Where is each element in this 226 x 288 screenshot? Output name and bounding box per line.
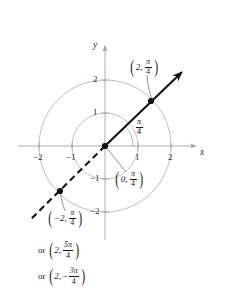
right-paren: ) [81,269,85,284]
left-paren: ( [130,60,134,75]
label-alt-two: or ( 2 , − 3π 4 ) [38,266,86,286]
theta-denominator: 4 [71,278,77,286]
label-point-origin: ( 0 , π 4 ) [114,170,144,188]
x-tick-label-minus1: −1 [66,153,76,162]
ordered-pair-origin: ( 0 , π 4 ) [114,170,144,188]
ordered-pair-inner: 2 , π 4 [135,58,152,76]
ordered-pair-inner: −2 , π 4 [53,209,76,227]
theta-fraction: π 4 [129,170,137,188]
plotted-point-upper[interactable] [148,98,154,104]
ordered-pair-lower: ( −2 , π 4 ) [47,209,83,227]
theta-numerator: π [130,170,136,178]
label-point-lower: ( −2 , π 4 ) [47,209,83,227]
ordered-pair-inner: 0 , π 4 [120,170,137,188]
angle-numerator: π [136,118,142,126]
theta-denominator: 4 [145,68,151,76]
theta-numerator: 5π [63,241,73,249]
left-paren: ( [49,243,53,258]
theta-numerator: 3π [69,267,79,275]
plotted-point-origin[interactable] [102,143,108,149]
ordered-pair-inner: 2 , − 3π 4 [54,267,80,285]
left-paren: ( [48,211,52,226]
angle-denominator: 4 [136,128,142,136]
y-tick-label-minus2: −2 [90,207,100,216]
label-point-upper: ( 2 , π 4 ) [129,58,159,76]
x-tick-label-2: 2 [168,153,173,162]
y-tick-label-2: 2 [93,75,98,84]
angle-fraction: π 4 [135,118,143,136]
polar-coordinate-figure: x y −2 −1 1 2 2 1 −1 −2 π 4 ( 2 , π 4 [0,0,226,288]
x-tick-label-1: 1 [135,153,140,162]
or-keyword: or [38,246,48,255]
or-keyword: or [38,272,48,281]
y-axis-label: y [93,41,97,51]
ordered-pair-alt-one: ( 2 , 5π 4 ) [48,241,81,259]
left-paren: ( [49,269,53,284]
ordered-pair-alt-two: ( 2 , − 3π 4 ) [48,267,87,285]
x-axis-label: x [200,148,204,158]
ordered-pair-upper: ( 2 , π 4 ) [129,58,159,76]
theta-numerator: π [145,58,151,66]
angle-label-pi-over-4: π 4 [135,117,143,136]
theta-denominator: 4 [130,180,136,188]
label-alt-one: or ( 2 , 5π 4 ) [38,240,80,260]
theta-denominator: 4 [65,252,71,260]
theta-denominator: 4 [69,219,75,227]
x-tick-label-minus2: −2 [33,153,43,162]
theta-fraction: π 4 [68,209,76,227]
alt-two-row: or ( 2 , − 3π 4 ) [38,267,86,285]
right-paren: ) [78,211,82,226]
plot-canvas [0,0,226,288]
ordered-pair-inner: 2 , 5π 4 [54,241,74,259]
y-tick-label-minus1: −1 [90,174,100,183]
left-paren: ( [115,172,119,187]
theta-numerator: π [69,209,75,217]
right-paren: ) [154,60,158,75]
alt-one-row: or ( 2 , 5π 4 ) [38,241,80,259]
right-paren: ) [139,172,143,187]
theta-fraction: 5π 4 [63,241,74,259]
angle-arc [125,126,133,146]
theta-fraction: 3π 4 [68,267,79,285]
radius-value: −2 [54,214,65,223]
theta-fraction: π 4 [144,58,152,76]
plotted-point-lower[interactable] [57,188,63,194]
right-paren: ) [75,243,79,258]
y-tick-label-1: 1 [93,108,98,117]
